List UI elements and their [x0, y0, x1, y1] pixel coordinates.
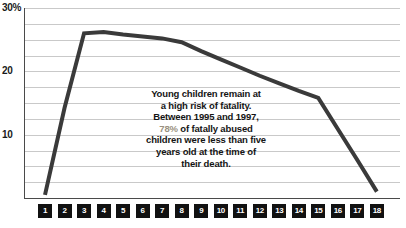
annotation-line: 78% of fatally abused	[118, 123, 294, 135]
x-axis-tick-16: 16	[331, 204, 345, 218]
x-axis-tick-labels: 123456789101112131415161718	[0, 204, 406, 224]
y-axis-tick-label: 30%	[2, 3, 21, 13]
x-axis-tick-10: 10	[214, 204, 228, 218]
x-axis-tick-4: 4	[97, 204, 111, 218]
annotation-line: their death.	[118, 158, 294, 170]
annotation-line: a high risk of fatality.	[118, 100, 294, 112]
x-axis-tick-17: 17	[350, 204, 364, 218]
x-axis-tick-8: 8	[175, 204, 189, 218]
x-axis-tick-15: 15	[311, 204, 325, 218]
chart-annotation: Young children remain ata high risk of f…	[118, 88, 294, 169]
chart-container: 30%2010 Young children remain ata high r…	[0, 0, 406, 228]
annotation-line: Young children remain at	[118, 88, 294, 100]
x-axis-tick-2: 2	[58, 204, 72, 218]
x-axis-tick-3: 3	[77, 204, 91, 218]
x-axis-tick-1: 1	[38, 204, 52, 218]
annotation-line: Between 1995 and 1997,	[118, 111, 294, 123]
annotation-line: children were less than five	[118, 134, 294, 146]
annotation-highlight: 78%	[159, 123, 180, 134]
x-axis-tick-11: 11	[233, 204, 247, 218]
x-axis-tick-14: 14	[292, 204, 306, 218]
x-axis-tick-12: 12	[253, 204, 267, 218]
y-axis-tick-label: 10	[2, 130, 13, 140]
x-axis-tick-6: 6	[136, 204, 150, 218]
x-axis-line	[24, 198, 400, 199]
x-axis-tick-13: 13	[272, 204, 286, 218]
x-axis-tick-5: 5	[116, 204, 130, 218]
annotation-line: years old at the time of	[118, 146, 294, 158]
y-axis-tick-label: 20	[2, 66, 13, 76]
x-axis-tick-7: 7	[155, 204, 169, 218]
annotation-text: of fatally abused	[180, 123, 252, 134]
x-axis-tick-9: 9	[194, 204, 208, 218]
x-axis-tick-18: 18	[370, 204, 384, 218]
